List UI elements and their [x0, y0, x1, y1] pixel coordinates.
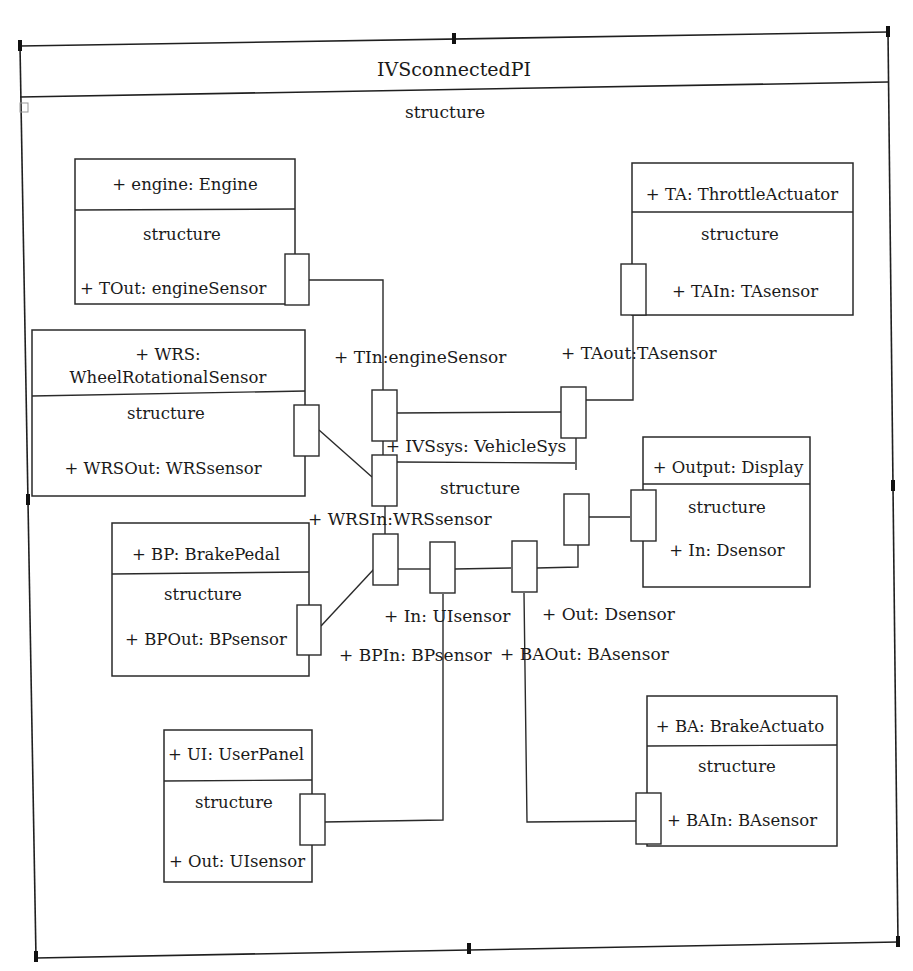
part-output-display[interactable]: + Output: Display structure + In: Dsenso…: [643, 437, 810, 587]
port-label-bpin: + BPIn: BPsensor: [339, 645, 493, 665]
port-out-ui[interactable]: [300, 794, 325, 845]
connector-wrs-wrsin: [319, 430, 372, 477]
part-compartment-label: structure: [195, 793, 273, 812]
part-wheel-rotational-sensor[interactable]: + WRS: WheelRotationalSensor structure +…: [32, 330, 305, 496]
port-label-out-d: + Out: Dsensor: [542, 604, 676, 624]
port-in-ui[interactable]: [430, 542, 455, 593]
port-label: + WRSOut: WRSsensor: [64, 459, 261, 478]
part-title: + engine: Engine: [112, 175, 257, 194]
resize-handle-top-mid[interactable]: [452, 33, 456, 44]
port-bain[interactable]: [636, 793, 661, 844]
connector-internal-top: [397, 462, 575, 463]
port-label: + TAIn: TAsensor: [672, 282, 818, 301]
part-compartment-label: structure: [440, 478, 520, 498]
connector-ui-in: [324, 594, 443, 822]
part-compartment-label: structure: [164, 585, 242, 604]
part-title: + BA: BrakeActuato: [656, 717, 824, 736]
part-title-line-2: WheelRotationalSensor: [70, 368, 267, 387]
port-label-in-ui: + In: UIsensor: [384, 606, 511, 626]
port-wrsin[interactable]: [372, 455, 397, 506]
connector-engine-tin: [309, 280, 383, 392]
resize-handle-mid-right[interactable]: [891, 480, 895, 491]
diagram-title: IVSconnectedPI: [377, 58, 531, 80]
port-in-d[interactable]: [631, 490, 656, 541]
resize-handle-bottom-mid[interactable]: [467, 943, 471, 954]
port-label: + In: Dsensor: [669, 541, 785, 560]
connector-tin-taout: [397, 412, 561, 413]
port-tout[interactable]: [285, 254, 309, 305]
port-label: + BAIn: BAsensor: [667, 811, 817, 830]
port-bpin[interactable]: [373, 534, 398, 585]
part-compartment-label: structure: [143, 225, 221, 244]
part-compartment-label: structure: [688, 498, 766, 517]
connector-bp-bpin: [321, 569, 374, 626]
port-label-baout: + BAOut: BAsensor: [500, 644, 670, 664]
port-label-taout: + TAout:TAsensor: [561, 343, 717, 363]
connector-ba-baout: [524, 593, 636, 822]
part-title: + Output: Display: [653, 458, 804, 477]
port-label: + BPOut: BPsensor: [125, 630, 287, 649]
part-user-panel[interactable]: + UI: UserPanel structure + Out: UIsenso…: [164, 730, 312, 882]
port-d-out[interactable]: [564, 494, 589, 545]
part-brake-pedal[interactable]: + BP: BrakePedal structure + BPOut: BPse…: [112, 523, 309, 676]
resize-handle-mid-left[interactable]: [26, 494, 30, 505]
part-throttle-actuator[interactable]: + TA: ThrottleActuator structure + TAIn:…: [632, 163, 853, 315]
resize-handle-bottom-right[interactable]: [896, 936, 900, 947]
port-tin[interactable]: [372, 390, 397, 441]
ivs-composite-structure-diagram: IVSconnectedPI structure + IVSsys: Vehic…: [0, 0, 913, 971]
port-wrsout[interactable]: [294, 405, 319, 456]
part-compartment-label: structure: [698, 757, 776, 776]
part-brake-actuator[interactable]: + BA: BrakeActuato structure + BAIn: BAs…: [647, 696, 837, 846]
part-compartment-label: structure: [701, 225, 779, 244]
part-engine[interactable]: + engine: Engine structure + TOut: engin…: [75, 159, 295, 304]
port-taout[interactable]: [561, 387, 586, 438]
resize-handle-bottom-left[interactable]: [34, 951, 38, 962]
part-title: + TA: ThrottleActuator: [646, 185, 838, 204]
part-title-line-1: + WRS:: [135, 345, 200, 364]
port-label-wrsin: + WRSIn:WRSsensor: [308, 509, 493, 529]
port-label: + Out: UIsensor: [169, 852, 305, 871]
part-title: + BP: BrakePedal: [132, 545, 280, 564]
port-label-tin: + TIn:engineSensor: [334, 347, 507, 367]
port-bpout[interactable]: [297, 605, 321, 655]
part-title: + IVSsys: VehicleSys: [386, 436, 567, 456]
part-compartment-label: structure: [127, 404, 205, 423]
part-ivs-sys[interactable]: + IVSsys: VehicleSys structure: [386, 436, 567, 498]
resize-handle-top-left[interactable]: [18, 40, 22, 51]
port-baout[interactable]: [512, 541, 537, 592]
part-title: + UI: UserPanel: [168, 745, 304, 764]
port-label: + TOut: engineSensor: [80, 279, 266, 298]
port-tain[interactable]: [621, 264, 646, 315]
resize-handle-top-right[interactable]: [886, 26, 890, 37]
connector-in-out: [455, 568, 511, 569]
frame-compartment-label: structure: [405, 102, 485, 122]
